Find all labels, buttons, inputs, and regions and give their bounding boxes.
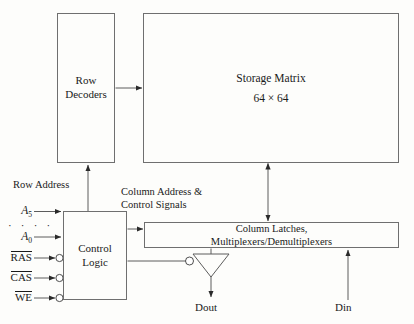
- tristate-buffer-icon: [193, 254, 229, 277]
- row-decoders-line2: Decoders: [65, 88, 107, 102]
- storage-matrix-block[interactable]: Storage Matrix 64 × 64: [143, 13, 399, 163]
- control-logic-block[interactable]: Control Logic: [63, 211, 127, 300]
- row-decoders-block[interactable]: Row Decoders: [57, 13, 115, 163]
- storage-matrix-line2: 64 × 64: [253, 91, 288, 105]
- column-latches-line1: Column Latches,: [236, 222, 308, 235]
- column-address-label-line2: Control Signals: [121, 199, 187, 212]
- dram-block-diagram: Row Decoders Storage Matrix 64 × 64 Cont…: [0, 0, 414, 324]
- storage-matrix-line1: Storage Matrix: [236, 71, 305, 85]
- din-label: Din: [335, 301, 352, 314]
- signal-cas-text: CAS: [11, 271, 32, 284]
- signal-label-we: WE: [0, 291, 32, 304]
- control-logic-line2: Logic: [82, 256, 108, 270]
- signal-a5-subscript: 5: [28, 210, 32, 219]
- dout-label: Dout: [195, 301, 217, 314]
- signal-ras-text: RAS: [11, 251, 32, 264]
- control-logic-line1: Control: [78, 242, 112, 256]
- row-decoders-line1: Row: [76, 74, 97, 88]
- buffer-enable-bubble-icon: [186, 257, 194, 265]
- column-latches-block[interactable]: Column Latches, Multiplexers/Demultiplex…: [144, 222, 399, 248]
- signal-a0-subscript: 0: [28, 236, 32, 245]
- row-address-label: Row Address: [13, 179, 69, 192]
- column-address-label-line1: Column Address &: [121, 186, 202, 199]
- signal-label-ras: RAS: [0, 251, 32, 264]
- signal-label-cas: CAS: [0, 271, 32, 284]
- column-latches-line2: Multiplexers/Demultiplexers: [211, 235, 332, 248]
- signal-label-a5: A5: [0, 204, 32, 219]
- signal-we-text: WE: [15, 291, 32, 304]
- signal-label-a0: A0: [0, 230, 32, 245]
